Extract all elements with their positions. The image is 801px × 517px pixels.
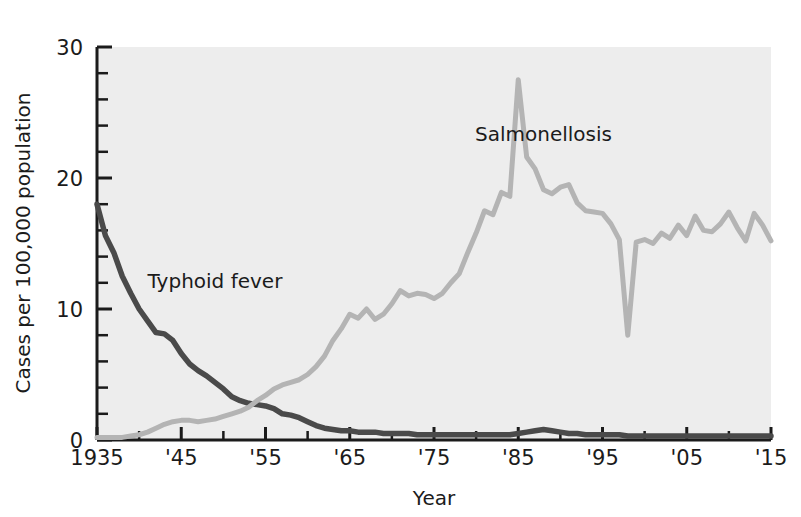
- x-tick-label: '95: [586, 446, 619, 470]
- annotation-typhoid-fever: Typhoid fever: [147, 269, 284, 293]
- annotation-salmonellosis: Salmonellosis: [475, 122, 612, 146]
- x-tick-label: '05: [671, 446, 704, 470]
- x-tick-label: '75: [418, 446, 451, 470]
- y-tick-label: 10: [56, 298, 83, 322]
- x-tick-label: '55: [249, 446, 282, 470]
- x-tick-label: '85: [502, 446, 535, 470]
- x-axis-tick-labels: 1935'45'55'65'75'85'95'05'15: [70, 446, 787, 470]
- x-axis-title: Year: [412, 486, 456, 510]
- y-tick-label: 30: [56, 36, 83, 60]
- x-tick-label: '45: [165, 446, 198, 470]
- x-tick-label: '65: [334, 446, 367, 470]
- y-tick-label: 20: [56, 167, 83, 191]
- plot-background: [97, 47, 771, 440]
- y-axis-title: Cases per 100,000 population: [11, 93, 35, 394]
- y-tick-label: 0: [70, 429, 83, 453]
- y-axis-tick-labels: 0102030: [56, 36, 83, 453]
- x-tick-label: '15: [755, 446, 788, 470]
- line-chart: 1935'45'55'65'75'85'95'05'15 0102030 Typ…: [0, 0, 801, 517]
- chart-figure: 1935'45'55'65'75'85'95'05'15 0102030 Typ…: [0, 0, 801, 517]
